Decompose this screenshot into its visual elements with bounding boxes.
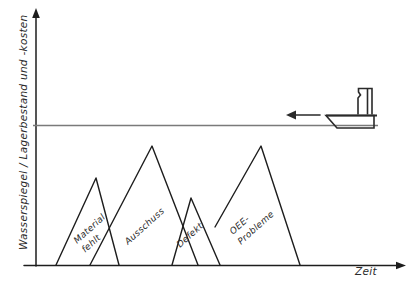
diagram-canvas: Wasserspiegel / Lagerbestand und -kosten… <box>0 0 417 281</box>
ship-funnel <box>358 89 372 115</box>
horizontal-axis <box>24 262 406 270</box>
direction-arrow-head <box>286 111 296 120</box>
peak-label-line-1: Ausschuss <box>122 206 166 247</box>
horizontal-axis-arrowhead <box>396 262 406 270</box>
peak-outline <box>215 146 300 265</box>
peak-material-fehlt: Material fehlt <box>56 178 119 265</box>
y-axis-label: Wasserspiegel / Lagerbestand und -kosten <box>17 14 29 250</box>
ship-icon <box>326 89 377 129</box>
peak-oee-probleme: OEE- Probleme <box>215 146 300 265</box>
ship-direction-arrow-icon <box>286 111 320 120</box>
peak-defekt: Defekt <box>172 198 220 265</box>
vertical-axis <box>32 8 40 266</box>
vertical-axis-arrowhead <box>32 8 40 18</box>
hand-drawn-diagram-svg: Wasserspiegel / Lagerbestand und -kosten… <box>0 0 417 281</box>
x-axis-label: Zeit <box>354 265 377 277</box>
